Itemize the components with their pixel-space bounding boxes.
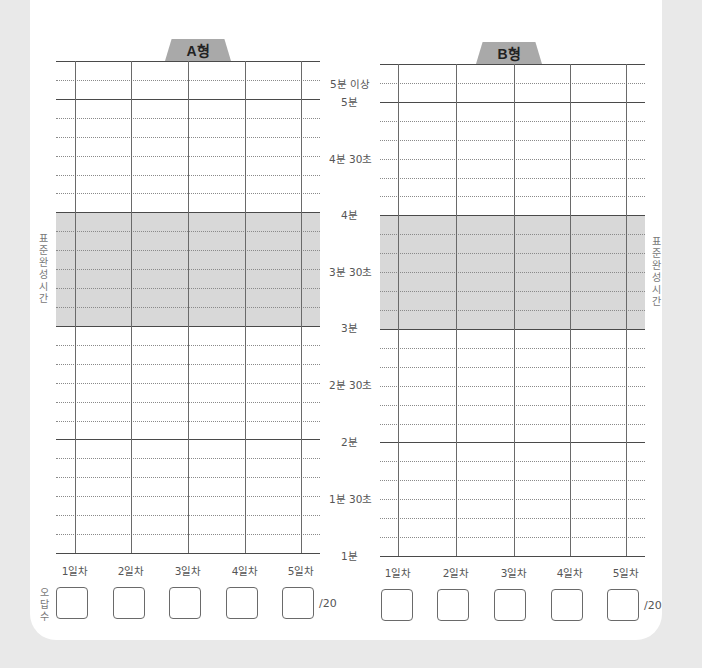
grid-line-minor: [380, 424, 645, 425]
grid-line-minor: [380, 386, 645, 387]
x-label-day2: 2일차: [443, 565, 470, 580]
y-label-1min: 1분: [341, 548, 358, 563]
x-label-day4: 4일차: [232, 563, 259, 578]
x-label-day5: 5일차: [613, 565, 640, 580]
grid-line-vertical: [514, 64, 515, 556]
grid-line-minor: [380, 121, 645, 122]
grid-line-minor: [380, 310, 645, 311]
grid-line-vertical: [188, 61, 189, 553]
standard-time-label-left: 표준완성시간: [37, 233, 49, 305]
wrong-answers-box-b-day3[interactable]: [494, 589, 526, 621]
wrong-answers-box-a-day4[interactable]: [226, 587, 258, 619]
grid-line-minor: [380, 499, 645, 500]
y-label-2min30: 2분 30초: [329, 377, 372, 392]
tab-label: A형: [186, 40, 209, 60]
grid-line-minor: [380, 518, 645, 519]
grid-line-minor: [380, 140, 645, 141]
standard-time-label-right: 표준완성시간: [650, 236, 662, 308]
y-label-1min30: 1분 30초: [329, 491, 372, 506]
grid-line-vertical: [131, 61, 132, 553]
x-label-day3: 3일차: [175, 563, 202, 578]
grid-line-minor: [380, 196, 645, 197]
grid-line-minor: [380, 83, 645, 84]
grid-line-major: [56, 553, 320, 554]
y-label-4min: 4분: [341, 207, 358, 222]
grid-line-minor: [380, 537, 645, 538]
wrong-answers-box-b-day1[interactable]: [381, 589, 413, 621]
grid-line-minor: [380, 480, 645, 481]
grid-line-minor: [380, 253, 645, 254]
wrong-answers-box-a-day3[interactable]: [169, 587, 201, 619]
wrong-answers-label: 오답수: [38, 587, 50, 623]
x-label-day1: 1일차: [62, 563, 89, 578]
y-label-3min30: 3분 30초: [329, 264, 372, 279]
x-label-day2: 2일차: [118, 563, 145, 578]
wrong-answers-box-b-day5[interactable]: [607, 589, 639, 621]
x-label-day3: 3일차: [501, 565, 528, 580]
grid-line-minor: [380, 159, 645, 160]
grid-line-vertical: [245, 61, 246, 553]
grid-line-minor: [380, 234, 645, 235]
x-label-day1: 1일차: [385, 565, 412, 580]
x-label-day4: 4일차: [557, 565, 584, 580]
wrong-answers-box-a-day5[interactable]: [282, 587, 314, 619]
grid-line-major: [380, 556, 645, 557]
tab-a-type: A형: [165, 39, 231, 61]
wrong-answers-total-b: /20: [644, 599, 662, 612]
grid-line-vertical: [456, 64, 457, 556]
grid-line-minor: [380, 348, 645, 349]
grid-line-vertical: [301, 61, 302, 553]
wrong-answers-total-a: /20: [319, 597, 337, 610]
y-label-3min: 3분: [341, 320, 358, 335]
wrong-answers-box-a-day2[interactable]: [113, 587, 145, 619]
wrong-answers-box-b-day4[interactable]: [551, 589, 583, 621]
x-label-day5: 5일차: [288, 563, 315, 578]
wrong-answers-box-a-day1[interactable]: [56, 587, 88, 619]
grid-line-vertical: [398, 64, 399, 556]
tab-label: B형: [497, 43, 520, 63]
y-label-over-5min: 5분 이상: [330, 76, 370, 91]
y-label-4min30: 4분 30초: [329, 151, 372, 166]
grid-line-major: [380, 442, 645, 443]
grid-line-major: [380, 215, 645, 216]
grid-line-major: [380, 329, 645, 330]
tab-b-type: B형: [476, 42, 542, 64]
grid-line-minor: [380, 272, 645, 273]
grid-line-minor: [380, 461, 645, 462]
grid-line-vertical: [75, 61, 76, 553]
grid-line-minor: [380, 405, 645, 406]
y-label-5min: 5분: [341, 94, 358, 109]
grid-line-minor: [380, 367, 645, 368]
grid-line-major: [380, 64, 645, 65]
grid-line-major: [380, 102, 645, 103]
grid-line-vertical: [626, 64, 627, 556]
grid-line-minor: [380, 178, 645, 179]
grid-line-minor: [380, 291, 645, 292]
grid-line-vertical: [570, 64, 571, 556]
y-label-2min: 2분: [341, 434, 358, 449]
wrong-answers-box-b-day2[interactable]: [437, 589, 469, 621]
